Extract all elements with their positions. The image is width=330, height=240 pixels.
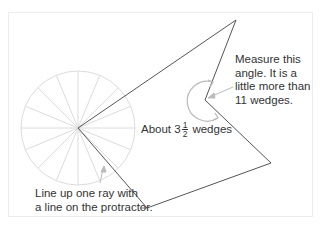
note-line: Line up one ray with bbox=[35, 187, 165, 201]
note-line: angle. It is a bbox=[235, 67, 330, 81]
note-line: a line on the protractor. bbox=[35, 201, 165, 215]
protractor-pointer-icon bbox=[100, 166, 106, 183]
angle-shape bbox=[78, 20, 271, 208]
wedge-count-label: About 3 1 2 wedges bbox=[141, 121, 232, 138]
fraction-denominator: 2 bbox=[183, 130, 188, 138]
note-line: little more than bbox=[235, 80, 330, 94]
line-up-note: Line up one ray with a line on the protr… bbox=[35, 187, 165, 214]
fraction: 1 2 bbox=[182, 121, 189, 138]
measure-angle-note: Measure this angle. It is a little more … bbox=[235, 53, 330, 107]
angle-arc-arrow-icon bbox=[187, 80, 218, 121]
about-suffix: wedges bbox=[192, 123, 232, 137]
about-prefix: About 3 bbox=[141, 123, 181, 137]
pointer-arrow-icon bbox=[208, 87, 233, 98]
note-line: 11 wedges. bbox=[235, 94, 330, 108]
note-line: Measure this bbox=[235, 53, 330, 67]
